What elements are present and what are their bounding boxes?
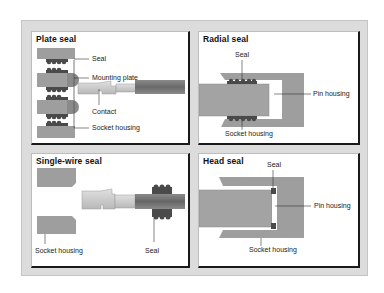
label-socket-housing: Socket housing	[92, 124, 140, 131]
contact	[78, 81, 116, 94]
panel-head-seal: Head seal Seal Pin housing Socket housin…	[198, 153, 360, 268]
wire	[135, 80, 185, 94]
label-seal: Seal	[92, 55, 106, 62]
label-seal: Seal	[267, 161, 281, 168]
label-pin-housing: Pin housing	[313, 90, 350, 97]
label-socket-housing: Socket housing	[35, 247, 83, 254]
label-seal: Seal	[145, 247, 159, 254]
socket-housing-bottom	[37, 216, 76, 234]
seal-top	[271, 188, 276, 194]
seal-bottom	[271, 223, 276, 229]
label-socket-housing: Socket housing	[225, 130, 273, 137]
socket-housing-top	[37, 168, 76, 187]
panel-single-wire-seal: Single-wire seal Socket housing Se	[31, 153, 190, 268]
label-mounting-plate: Mounting plate	[92, 74, 138, 81]
seal-rows	[46, 59, 68, 126]
housing-top	[37, 48, 75, 59]
label-pin-housing: Pin housing	[314, 202, 351, 209]
contact	[82, 189, 115, 209]
socket-housing	[37, 126, 75, 138]
pin-housing	[199, 190, 272, 227]
pin-housing	[199, 84, 269, 116]
mounting-plate-2	[37, 100, 67, 114]
label-contact: Contact	[92, 108, 116, 115]
panel-radial-seal: Radial seal Seal Pin housing Socket hous…	[198, 31, 360, 145]
label-seal: Seal	[235, 51, 249, 58]
panel-plate-seal: Plate seal	[31, 31, 190, 145]
mounting-plate-1	[37, 73, 67, 87]
radial-seal-illustration	[199, 32, 361, 146]
label-socket-housing: Socket housing	[249, 246, 297, 253]
wire	[135, 194, 185, 209]
